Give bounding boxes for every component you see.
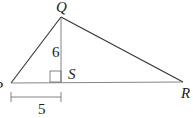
vertex-label-q: Q xyxy=(56,0,67,15)
altitude-length-label: 6 xyxy=(52,44,60,60)
vertex-label-s: S xyxy=(68,66,76,82)
vertex-label-r: R xyxy=(180,85,190,101)
vertex-label-p: P xyxy=(0,79,3,95)
side-pr xyxy=(11,82,183,83)
right-angle-marker xyxy=(50,71,61,82)
side-qr xyxy=(61,17,183,82)
triangle-diagram: Q P S R 6 5 xyxy=(0,0,193,118)
base-segment-length-label: 5 xyxy=(38,101,46,117)
